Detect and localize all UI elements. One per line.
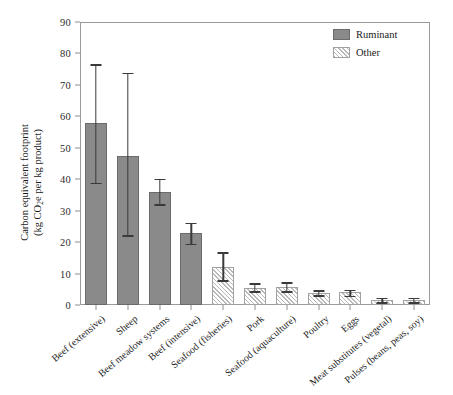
x-axis-category-label: Beef (extensive) (49, 313, 106, 364)
x-axis-category-label: Eggs (339, 313, 361, 334)
solid-gray-swatch-icon (333, 29, 350, 40)
legend-label-ruminant: Ruminant (356, 29, 397, 40)
x-axis-category-label: Pork (244, 313, 266, 334)
legend: Ruminant Other (333, 27, 397, 63)
legend-label-other: Other (356, 47, 380, 58)
hatched-gray-swatch-icon (333, 47, 350, 58)
x-axis-category-label: Sheep (113, 313, 139, 337)
legend-item-other[interactable]: Other (333, 45, 397, 59)
legend-item-ruminant[interactable]: Ruminant (333, 27, 397, 41)
carbon-footprint-bar-chart: Carbon equivalent footprint (kg CO2e per… (0, 0, 453, 395)
x-axis-category-label: Poultry (301, 313, 331, 340)
